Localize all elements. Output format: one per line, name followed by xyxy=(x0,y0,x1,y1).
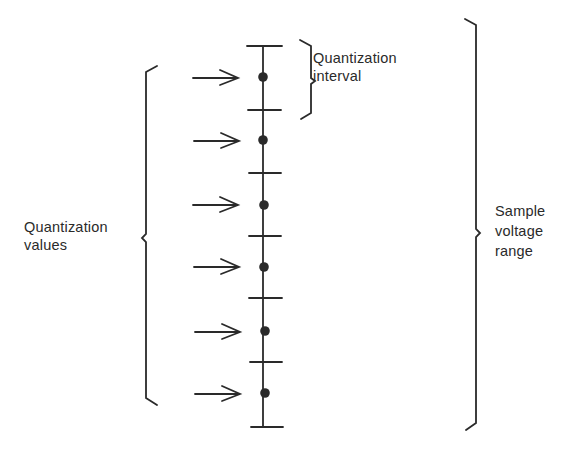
quantization-point xyxy=(259,262,269,272)
quantization-interval-label: Quantization interval xyxy=(313,49,397,85)
sample-voltage-range-label: Sample voltage range xyxy=(495,201,545,261)
label-line: Quantization xyxy=(313,49,397,67)
label-line: voltage xyxy=(495,221,545,241)
quantization-point xyxy=(258,72,268,82)
quantization-values-label: Quantization values xyxy=(24,218,108,254)
arrow-icon xyxy=(194,259,239,274)
label-line: values xyxy=(24,236,108,254)
arrow-icon xyxy=(193,197,238,212)
label-line: interval xyxy=(313,67,397,85)
values-brace-icon xyxy=(142,66,157,405)
interval-boundary-ticks xyxy=(247,46,283,427)
arrow-icon xyxy=(194,133,239,148)
arrow-icon xyxy=(195,386,240,401)
quantization-point xyxy=(260,388,270,398)
quantization-point xyxy=(258,135,268,145)
label-line: Quantization xyxy=(24,218,108,236)
label-line: Sample xyxy=(495,201,545,221)
quantization-point xyxy=(260,326,270,336)
quantization-point xyxy=(259,200,269,210)
label-line: range xyxy=(495,241,545,261)
quantization-value-arrows xyxy=(193,70,240,401)
quantization-points xyxy=(258,72,270,398)
arrow-icon xyxy=(195,324,240,339)
arrow-icon xyxy=(193,70,238,85)
range-brace-icon xyxy=(465,19,480,430)
